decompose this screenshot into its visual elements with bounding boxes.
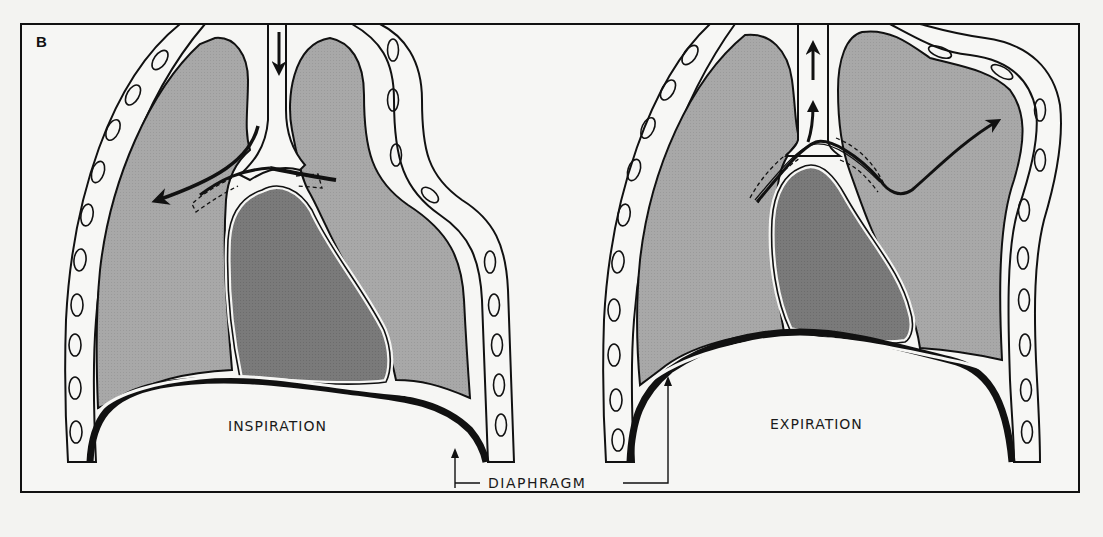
expiration-label: EXPIRATION bbox=[770, 416, 863, 432]
respiration-diagram: B bbox=[0, 0, 1103, 537]
panel-label: B bbox=[36, 33, 47, 50]
diaphragm-label: DIAPHRAGM bbox=[488, 475, 586, 491]
inspiration-label: INSPIRATION bbox=[228, 418, 327, 434]
